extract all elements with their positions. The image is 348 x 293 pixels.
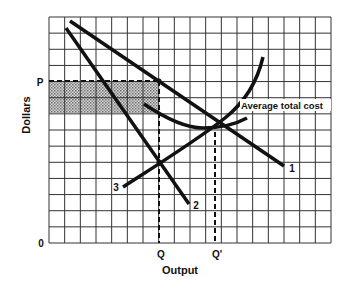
y-axis-label: Dollars [20, 96, 32, 133]
average-total-cost-label: Average total cost [241, 100, 324, 111]
origin-label: 0 [38, 238, 44, 249]
grid [49, 17, 331, 243]
quantity-prime-label: Q' [212, 249, 222, 260]
demand-at-q-dot [157, 79, 162, 84]
quantity-label: Q [157, 249, 165, 260]
demand-curve-label: 1 [289, 163, 295, 174]
marginal-revenue-curve-label: 2 [193, 200, 199, 211]
mr-mc-intersection-dot [157, 160, 162, 165]
x-axis-label: Output [162, 264, 198, 276]
economics-diagram: Dollars Output 0 P Q Q' 1 2 3 Average to… [0, 0, 348, 293]
marginal-cost-curve-label: 3 [113, 182, 119, 193]
price-label: P [37, 77, 44, 88]
